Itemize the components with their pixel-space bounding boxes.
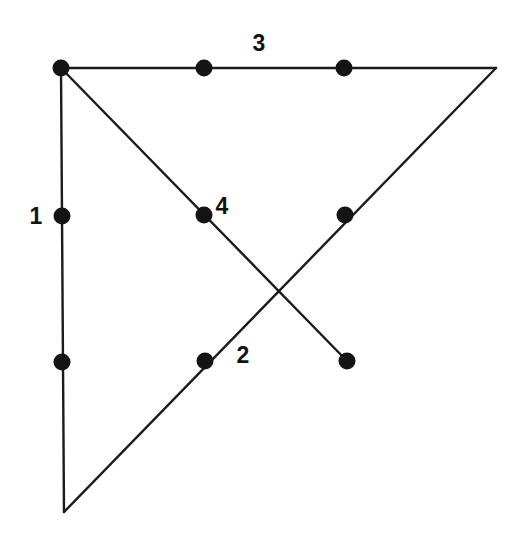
line-figure xyxy=(0,0,524,542)
segment-2[interactable] xyxy=(64,68,496,512)
point-diagonal-4-point[interactable] xyxy=(196,207,213,224)
segment-label-4: 4 xyxy=(216,195,229,218)
point-top-edge-point-a[interactable] xyxy=(196,60,213,77)
point-left-edge-point-upper[interactable] xyxy=(54,208,71,225)
segment-label-3: 3 xyxy=(253,32,266,55)
point-left-edge-point-lower[interactable] xyxy=(54,354,71,371)
point-diagonal-2-point-upper[interactable] xyxy=(337,207,354,224)
point-diagonal-4-endpoint[interactable] xyxy=(339,353,356,370)
point-diagonal-2-point-lower[interactable] xyxy=(197,353,214,370)
point-top-left-vertex[interactable] xyxy=(53,60,70,77)
diagram-canvas: 1234 xyxy=(0,0,524,542)
segments-group xyxy=(61,68,496,512)
segment-label-2: 2 xyxy=(237,344,250,367)
point-top-edge-point-b[interactable] xyxy=(336,60,353,77)
segment-1[interactable] xyxy=(61,68,64,512)
segment-label-1: 1 xyxy=(30,205,43,228)
